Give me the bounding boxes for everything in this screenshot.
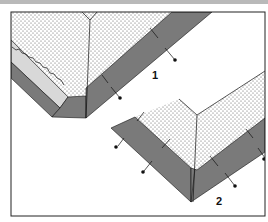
figure-label-1: 1 [152,69,158,81]
diagram-canvas [0,0,268,222]
figure-label-2: 2 [216,195,222,207]
figure-2 [111,71,266,202]
